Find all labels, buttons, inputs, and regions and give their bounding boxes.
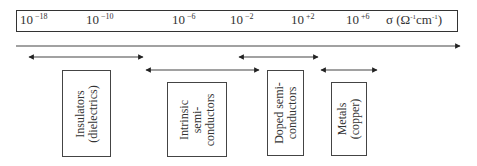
intrinsic-semiconductors-box: Intrinsicsemi-conductors [167, 82, 227, 157]
doped-semiconductors-box: Doped semi-conductors [267, 70, 304, 156]
conductivity-diagram: 10−18 10−10 10−6 10−2 10+2 10+6 σ (Ω-1cm… [0, 0, 477, 166]
intrinsic-semiconductors-label: Intrinsicsemi-conductors [178, 93, 217, 146]
insulators-box: Insulators(dielectrics) [62, 70, 111, 157]
metals-label: Metals(copper) [336, 99, 362, 140]
insulators-label: Insulators(dielectrics) [74, 85, 100, 142]
metals-box: Metals(copper) [331, 82, 367, 156]
doped-semiconductors-label: Doped semi-conductors [273, 82, 299, 144]
